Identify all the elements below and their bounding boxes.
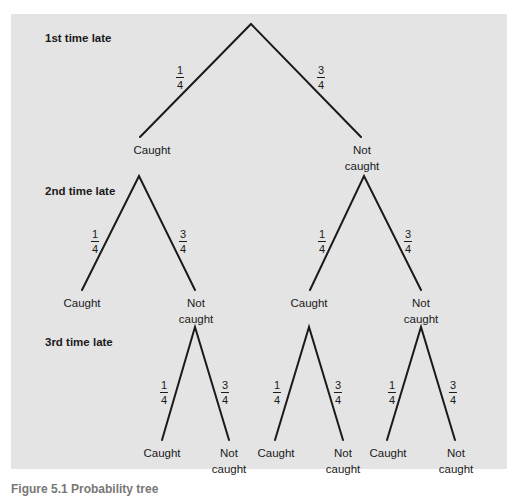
numerator: 1 — [318, 228, 326, 242]
node-label-line1: Not — [353, 144, 371, 156]
prob-l3-b-not-caught: 3 4 — [334, 379, 342, 406]
node-label-line1: Not — [412, 297, 430, 309]
prob-l3-c-not-caught: 3 4 — [449, 379, 457, 406]
node-label: Caught — [63, 297, 100, 309]
node-label-line2: caught — [439, 463, 474, 475]
numerator: 3 — [179, 228, 187, 242]
node-l2-b-caught: Caught — [290, 295, 327, 311]
prob-l3-b-caught: 1 4 — [273, 379, 281, 406]
node-l2-a-caught: Caught — [63, 295, 100, 311]
denominator: 4 — [177, 78, 183, 91]
denominator: 4 — [389, 393, 395, 406]
node-label: Caught — [257, 447, 294, 459]
node-label-line2: caught — [212, 463, 247, 475]
numerator: 3 — [449, 379, 457, 393]
node-label-line2: caught — [326, 463, 361, 475]
node-label-line2: caught — [345, 160, 380, 172]
level-label-1: 1st time late — [45, 32, 111, 44]
node-l3-b-caught: Caught — [257, 445, 294, 461]
node-l1-caught: Caught — [133, 142, 170, 158]
level-label-3: 3rd time late — [45, 336, 113, 348]
node-l3-a-not-caught: Not caught — [212, 445, 247, 477]
node-label-line1: Not — [220, 447, 238, 459]
branch-l1 — [140, 24, 361, 137]
prob-l2-a-not-caught: 3 4 — [179, 228, 187, 255]
node-l3-b-not-caught: Not caught — [326, 445, 361, 477]
denominator: 4 — [450, 393, 456, 406]
denominator: 4 — [161, 393, 167, 406]
node-l3-a-caught: Caught — [143, 445, 180, 461]
prob-l2-b-caught: 1 4 — [318, 228, 326, 255]
numerator: 1 — [388, 379, 396, 393]
numerator: 3 — [334, 379, 342, 393]
prob-l3-a-caught: 1 4 — [160, 379, 168, 406]
numerator: 1 — [91, 228, 99, 242]
denominator: 4 — [405, 242, 411, 255]
branch-l3-b — [275, 327, 343, 440]
numerator: 1 — [273, 379, 281, 393]
node-l3-c-caught: Caught — [369, 445, 406, 461]
prob-l1-not-caught: 3 4 — [317, 64, 325, 91]
node-label: Caught — [143, 447, 180, 459]
figure-caption: Figure 5.1 Probability tree — [11, 482, 158, 496]
numerator: 1 — [176, 64, 184, 78]
node-l3-c-not-caught: Not caught — [439, 445, 474, 477]
denominator: 4 — [274, 393, 280, 406]
node-l2-a-not-caught: Not caught — [179, 295, 214, 327]
node-l1-not-caught: Not caught — [345, 142, 380, 174]
denominator: 4 — [335, 393, 341, 406]
numerator: 1 — [160, 379, 168, 393]
numerator: 3 — [221, 379, 229, 393]
prob-l2-b-not-caught: 3 4 — [404, 228, 412, 255]
prob-l3-c-caught: 1 4 — [388, 379, 396, 406]
denominator: 4 — [222, 393, 228, 406]
level-label-2: 2nd time late — [45, 185, 115, 197]
denominator: 4 — [318, 78, 324, 91]
numerator: 3 — [317, 64, 325, 78]
numerator: 3 — [404, 228, 412, 242]
denominator: 4 — [319, 242, 325, 255]
denominator: 4 — [92, 242, 98, 255]
branch-l3-a — [162, 327, 229, 440]
node-label-line1: Not — [447, 447, 465, 459]
branch-l3-c — [387, 327, 455, 440]
denominator: 4 — [180, 242, 186, 255]
node-label: Caught — [133, 144, 170, 156]
node-label: Caught — [290, 297, 327, 309]
prob-l2-a-caught: 1 4 — [91, 228, 99, 255]
node-label-line1: Not — [187, 297, 205, 309]
prob-l3-a-not-caught: 3 4 — [221, 379, 229, 406]
node-l2-b-not-caught: Not caught — [404, 295, 439, 327]
node-label-line2: caught — [404, 313, 439, 325]
prob-l1-caught: 1 4 — [176, 64, 184, 91]
node-label-line1: Not — [334, 447, 352, 459]
node-label: Caught — [369, 447, 406, 459]
node-label-line2: caught — [179, 313, 214, 325]
